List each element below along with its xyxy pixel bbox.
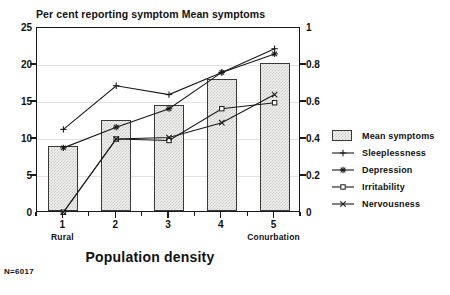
y-axis-tick-right	[300, 137, 306, 138]
x-axis-tick	[273, 212, 274, 218]
x-axis-tick-minor	[88, 212, 89, 216]
legend-item-irritability[interactable]: Irritability	[330, 179, 448, 195]
legend-label: Sleeplessness	[362, 148, 426, 158]
x-axis-tick-minor	[35, 212, 36, 216]
legend-marker-plus-icon	[330, 146, 356, 160]
x-axis-endpoint-label-right: Conurbation	[247, 232, 300, 242]
y-axis-tick-left	[30, 63, 36, 64]
plus-marker-icon	[330, 146, 356, 160]
legend-item-nervousness[interactable]: Nervousness	[330, 196, 448, 212]
y-axis-tick-left	[30, 174, 36, 175]
plot-area	[36, 27, 300, 212]
mean-symptoms-swatch-icon	[332, 130, 352, 141]
plot-inner	[37, 28, 299, 211]
x-axis-tick-label: 4	[218, 219, 224, 230]
sample-size-note: N=6017	[4, 267, 34, 276]
x-axis-tick-minor	[194, 212, 195, 216]
series-layer	[37, 28, 301, 213]
y-axis-tick-label-right: 1	[306, 22, 312, 33]
y-axis-tick-label-left: 0	[4, 207, 32, 218]
legend-item-depression[interactable]: Depression	[330, 162, 448, 178]
y-axis-tick-label-left: 20	[4, 59, 32, 70]
legend-label: Irritability	[362, 182, 405, 192]
cross-marker-icon	[330, 197, 356, 211]
y-axis-tick-left	[30, 137, 36, 138]
chart-canvas: Per cent reporting symptom Mean symptoms…	[0, 0, 450, 295]
legend-label: Mean symptoms	[362, 131, 434, 141]
y-axis-tick-right	[300, 174, 306, 175]
x-axis-tick-label: 3	[165, 219, 171, 230]
y-axis-tick-label-right: 0.6	[306, 96, 320, 107]
y-axis-tick-label-right: 0.2	[306, 170, 320, 181]
x-axis-tick-minor	[247, 212, 248, 216]
y-axis-tick-right	[300, 63, 306, 64]
y-axis-tick-label-left: 5	[4, 170, 32, 181]
x-axis-tick-minor	[299, 212, 300, 216]
legend-marker-star-icon	[330, 163, 356, 177]
x-axis-tick-label: 5	[271, 219, 277, 230]
series-irritability	[61, 101, 277, 215]
x-axis-endpoint-label-left: Rural	[51, 232, 74, 242]
series-depression	[60, 51, 278, 151]
y-axis-tick-label-right: 0	[306, 207, 312, 218]
legend-label: Depression	[362, 165, 413, 175]
x-axis-tick	[167, 212, 168, 218]
legend-marker-square-icon	[330, 180, 356, 194]
series-sleeplessness	[60, 46, 278, 133]
y-axis-tick-label-left: 10	[4, 133, 32, 144]
legend-marker-cross-icon	[330, 197, 356, 211]
y-axis-tick-right	[300, 100, 306, 101]
x-axis-title: Population density	[0, 249, 300, 265]
x-axis-tick	[62, 212, 63, 218]
x-axis-tick	[220, 212, 221, 218]
x-axis-tick-label: 1	[60, 219, 66, 230]
x-axis-tick-label: 2	[112, 219, 118, 230]
x-axis-tick	[115, 212, 116, 218]
legend-label: Nervousness	[362, 199, 420, 209]
y-axis-tick-label-right: 0.8	[306, 59, 320, 70]
y-axis-tick-label-left: 15	[4, 96, 32, 107]
y-axis-tick-label-left: 25	[4, 22, 32, 33]
x-axis-tick-minor	[141, 212, 142, 216]
legend-item-sleeplessness[interactable]: Sleeplessness	[330, 145, 448, 161]
legend-swatch-icon	[330, 129, 356, 143]
square-marker-icon	[330, 180, 356, 194]
y-axis-tick-left	[30, 100, 36, 101]
legend: Mean symptomsSleeplessnessDepressionIrri…	[330, 128, 448, 213]
legend-item-mean-symptoms[interactable]: Mean symptoms	[330, 128, 448, 144]
chart-title: Per cent reporting symptom Mean symptoms	[36, 8, 265, 20]
star-marker-icon	[330, 163, 356, 177]
y-axis-tick-label-right: 0.4	[306, 133, 320, 144]
